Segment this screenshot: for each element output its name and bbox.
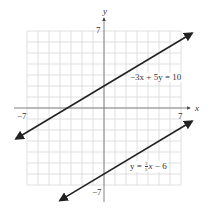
x-max-tick-label: 7: [178, 112, 183, 121]
line2-prefix: y =: [130, 161, 144, 171]
coordinate-plane: [0, 0, 209, 215]
line2-suffix: − 6: [153, 161, 167, 171]
x-axis-label: x: [195, 104, 199, 113]
line2-fraction: 35: [145, 161, 148, 172]
line1-equation-label: −3x + 5y = 10: [129, 73, 182, 82]
y-max-tick-label: 7: [96, 26, 101, 35]
fraction-denominator: 5: [145, 167, 148, 172]
y-axis-label: y: [103, 7, 107, 16]
y-min-tick-label: −7: [92, 188, 102, 197]
x-min-tick-label: −7: [17, 112, 27, 121]
line1-equation: −3x + 5y = 10: [130, 72, 181, 82]
line2-equation-label: y = 35x − 6: [129, 161, 168, 172]
